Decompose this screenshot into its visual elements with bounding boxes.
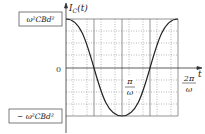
twopi-tick-num: 2π (183, 74, 195, 83)
x-axis-label: t (198, 69, 202, 79)
y-max-label: ω²CBd² (26, 15, 54, 24)
pi-tick-num: π (126, 77, 133, 86)
pi-tick-den: ω (127, 88, 134, 97)
axes (65, 3, 203, 133)
y-min-label: − ω²CBd² (17, 112, 54, 121)
origin-label: 0 (56, 65, 61, 74)
chart: IC(t) t 0 ω²CBd² − ω²CBd² π ω 2π ω (0, 0, 205, 134)
y-axis-label: IC(t) (68, 3, 88, 14)
twopi-tick-den: ω (186, 85, 193, 94)
